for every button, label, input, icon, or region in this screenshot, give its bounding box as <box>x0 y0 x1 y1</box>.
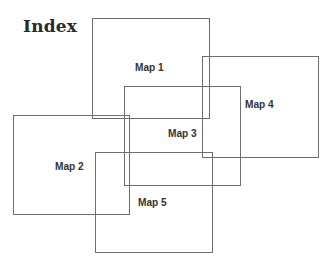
map-3-label: Map 3 <box>168 127 197 139</box>
map-1-label: Map 1 <box>135 61 164 73</box>
map-5-label: Map 5 <box>138 196 167 208</box>
index-map-diagram: Index Map 1 Map 2 Map 3 Map 4 Map 5 <box>0 0 334 267</box>
map-2-label: Map 2 <box>55 160 84 172</box>
index-title: Index <box>23 16 77 36</box>
map-4-label: Map 4 <box>245 98 274 110</box>
